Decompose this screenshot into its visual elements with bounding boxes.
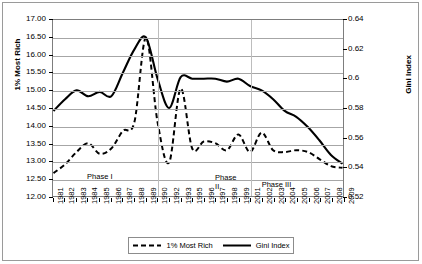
y-tick-label-left: 12.50 — [8, 175, 46, 183]
gridline — [53, 127, 343, 128]
x-tick-label: 1995 — [195, 187, 204, 204]
gridline — [53, 145, 343, 146]
gridline — [53, 91, 343, 92]
phase-label: Phase I — [87, 172, 112, 181]
x-tick-label: 1990 — [160, 187, 169, 204]
y-tick-mark-left — [49, 161, 53, 162]
y-tick-label-left: 15.50 — [8, 68, 46, 76]
solid-line-icon — [222, 242, 252, 249]
x-tick-mark — [250, 198, 251, 202]
x-tick-mark — [64, 198, 65, 202]
x-tick-mark — [146, 198, 147, 202]
gridline — [53, 56, 343, 57]
x-tick-mark — [181, 198, 182, 202]
legend-label-rich: 1% Most Rich — [166, 241, 212, 250]
x-tick-mark — [239, 198, 240, 202]
y-tick-label-left: 12.00 — [8, 193, 46, 201]
y-tick-label-left: 16.50 — [8, 33, 46, 41]
x-tick-label: 1989 — [149, 187, 158, 204]
y-tick-mark-left — [49, 19, 53, 20]
x-tick-label: 2005 — [300, 187, 309, 204]
y-tick-mark-left — [49, 72, 53, 73]
y-tick-mark-left — [49, 90, 53, 91]
x-tick-mark — [332, 198, 333, 202]
y-tick-mark-left — [49, 179, 53, 180]
x-tick-mark — [204, 198, 205, 202]
x-tick-mark — [309, 198, 310, 202]
x-tick-mark — [192, 198, 193, 202]
x-tick-mark — [297, 198, 298, 202]
y-tick-label-right: 0.58 — [348, 104, 364, 112]
gridline — [53, 73, 343, 74]
y-tick-label-right: 0.62 — [348, 45, 364, 53]
gridline — [53, 38, 343, 39]
x-tick-label: 1999 — [242, 187, 251, 204]
y-tick-label-right: 0.6 — [348, 74, 359, 82]
x-tick-mark — [344, 198, 345, 202]
y-tick-label-left: 17.00 — [8, 15, 46, 23]
x-tick-mark — [157, 198, 158, 202]
y-tick-mark-right — [343, 108, 347, 109]
y-tick-mark-left — [49, 55, 53, 56]
y-tick-label-left: 14.00 — [8, 122, 46, 130]
y-tick-mark-left — [49, 37, 53, 38]
y-tick-mark-right — [343, 49, 347, 50]
x-tick-mark — [285, 198, 286, 202]
y-tick-mark-left — [49, 126, 53, 127]
y-tick-label-right: 0.56 — [348, 134, 364, 142]
x-tick-mark — [122, 198, 123, 202]
chart-legend: 1% Most Rich Gini Index — [128, 237, 294, 254]
legend-item-rich: 1% Most Rich — [132, 241, 212, 250]
x-tick-label: 1992 — [172, 187, 181, 204]
x-tick-label: 2008 — [335, 187, 344, 204]
y-tick-label-left: 14.50 — [8, 104, 46, 112]
gridline — [53, 162, 343, 163]
x-tick-label: 1985 — [102, 187, 111, 204]
x-tick-label: 1984 — [90, 187, 99, 204]
x-tick-mark — [320, 198, 321, 202]
legend-label-gini: Gini Index — [256, 241, 290, 250]
y-axis-right-title: Gini Index — [404, 25, 413, 125]
y-tick-label-left: 13.00 — [8, 157, 46, 165]
x-tick-mark — [53, 198, 54, 202]
phase-label: Phase III — [262, 180, 292, 189]
plot-area — [52, 19, 344, 197]
x-tick-mark — [169, 198, 170, 202]
y-tick-mark-right — [343, 138, 347, 139]
x-tick-mark — [111, 198, 112, 202]
x-axis-labels: 1981198219831984198519861987198819891990… — [52, 198, 344, 238]
x-tick-mark — [262, 198, 263, 202]
x-tick-label: 1993 — [184, 187, 193, 204]
series-line-rich — [53, 38, 342, 174]
x-tick-label: 2009 — [347, 187, 356, 204]
y-tick-label-left: 16.00 — [8, 51, 46, 59]
x-tick-label: 2002 — [265, 187, 274, 204]
x-tick-label: 1982 — [67, 187, 76, 204]
x-tick-label: 2006 — [312, 187, 321, 204]
x-tick-mark — [227, 198, 228, 202]
x-tick-label: 1988 — [137, 187, 146, 204]
y-tick-mark-left — [49, 144, 53, 145]
phase-divider — [158, 20, 159, 196]
x-tick-label: 2004 — [288, 187, 297, 204]
x-tick-mark — [274, 198, 275, 202]
y-tick-mark-right — [343, 78, 347, 79]
y-axis-left-title: 1% Most Rich — [13, 10, 22, 120]
y-tick-label-left: 13.50 — [8, 140, 46, 148]
gridline — [53, 109, 343, 110]
y-tick-mark-right — [343, 167, 347, 168]
x-tick-label: 1986 — [114, 187, 123, 204]
y-tick-label-left: 15.00 — [8, 86, 46, 94]
dashed-line-icon — [132, 242, 162, 249]
x-tick-mark — [99, 198, 100, 202]
x-tick-mark — [134, 198, 135, 202]
legend-item-gini: Gini Index — [222, 241, 290, 250]
x-tick-mark — [87, 198, 88, 202]
x-tick-label: 1983 — [79, 187, 88, 204]
y-tick-mark-right — [343, 19, 347, 20]
x-tick-mark — [215, 198, 216, 202]
y-tick-mark-left — [49, 108, 53, 109]
x-tick-label: 1987 — [125, 187, 134, 204]
y-tick-label-right: 0.64 — [348, 15, 364, 23]
x-tick-label: 2007 — [323, 187, 332, 204]
